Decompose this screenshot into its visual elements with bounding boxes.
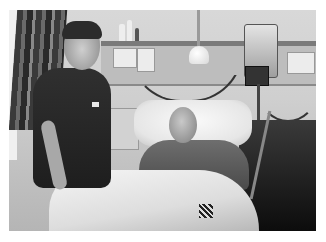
- monitor: [245, 66, 269, 86]
- hospital-photo: [9, 10, 316, 231]
- bottle: [135, 28, 139, 41]
- nurse-hair: [62, 21, 102, 39]
- lamp-arm: [197, 10, 200, 46]
- blanket-tag: [199, 204, 213, 218]
- patient-head: [169, 107, 197, 143]
- bottle: [119, 24, 125, 41]
- bottle: [127, 20, 132, 41]
- wall-control-panel: [287, 52, 315, 74]
- name-badge: [92, 102, 99, 107]
